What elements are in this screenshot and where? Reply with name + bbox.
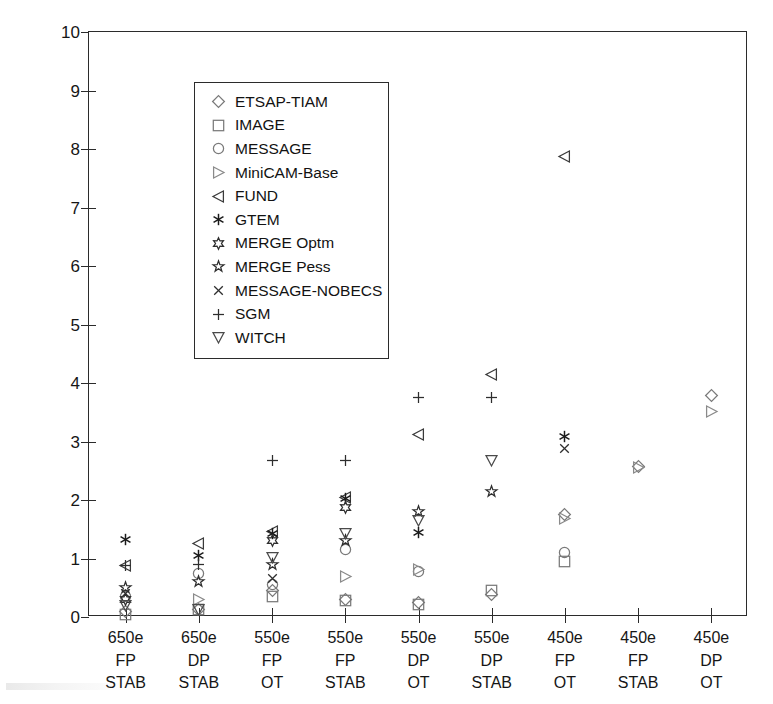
x-tick-mark-inner	[272, 608, 273, 615]
data-point-circle	[117, 588, 135, 606]
legend-item-witch[interactable]: WITCH	[201, 326, 382, 350]
legend-item-image[interactable]: IMAGE	[201, 114, 382, 138]
legend-item-label: WITCH	[235, 329, 286, 347]
x-tick-mark	[492, 615, 493, 623]
data-point-asterisk	[336, 490, 354, 508]
legend-item-label: MESSAGE-NOBECS	[235, 282, 382, 300]
legend-item-gtem[interactable]: GTEM	[201, 208, 382, 232]
y-tick-label: 5	[71, 316, 80, 333]
data-point-triangle-left	[556, 147, 574, 165]
data-point-triangle-down	[263, 548, 281, 566]
x-category-label-line: DP	[401, 650, 437, 673]
data-point-asterisk	[117, 531, 135, 549]
data-point-triangle-down	[410, 511, 428, 529]
legend-item-fund[interactable]: FUND	[201, 184, 382, 208]
x-tick-mark	[638, 615, 639, 623]
data-point-triangle-left	[483, 365, 501, 383]
y-tick-mark-inner	[89, 91, 96, 92]
legend-item-label: ETSAP-TIAM	[235, 93, 328, 111]
data-point-square	[483, 582, 501, 600]
x-category-label-line: FP	[547, 650, 583, 673]
data-point-pentagram	[410, 503, 428, 521]
x-category-label-line: STAB	[618, 672, 659, 695]
x-category-label-line: 550e	[471, 627, 512, 650]
data-point-cross	[263, 570, 281, 588]
data-point-triangle-left	[336, 488, 354, 506]
x-category-label-line: OT	[547, 672, 583, 695]
x-tick-mark-inner	[492, 608, 493, 615]
data-point-cross	[556, 440, 574, 458]
x-category-label-line: DP	[179, 650, 220, 673]
x-category-label-line: OT	[694, 672, 730, 695]
legend-item-label: MiniCAM-Base	[235, 164, 338, 182]
x-category-label-line: 450e	[547, 627, 583, 650]
data-point-diamond	[629, 458, 647, 476]
legend-item-sgm[interactable]: SGM	[201, 302, 382, 326]
data-point-asterisk	[263, 525, 281, 543]
x-category-label: 550eFPOT	[254, 627, 290, 695]
data-point-triangle-down	[336, 525, 354, 543]
legend-box: ETSAP-TIAMIMAGEMESSAGEMiniCAM-BaseFUNDGT…	[194, 82, 389, 359]
legend-item-merge-pess[interactable]: MERGE Pess	[201, 255, 382, 279]
legend-item-message-nobecs[interactable]: MESSAGE-NOBECS	[201, 279, 382, 303]
cross-icon	[201, 284, 235, 297]
data-point-asterisk	[556, 428, 574, 446]
x-category-label-line: 550e	[401, 627, 437, 650]
y-tick-label: 0	[71, 609, 80, 626]
data-point-triangle-left	[263, 522, 281, 540]
data-point-plus	[336, 451, 354, 469]
data-point-triangle-right	[556, 510, 574, 528]
legend-item-minicam-base[interactable]: MiniCAM-Base	[201, 161, 382, 185]
data-point-circle	[336, 541, 354, 559]
x-category-label-line: FP	[618, 650, 659, 673]
x-category-label-line: 450e	[618, 627, 659, 650]
y-tick-mark	[81, 208, 89, 209]
data-point-triangle-left	[117, 557, 135, 575]
y-tick-mark	[81, 266, 89, 267]
data-point-triangle-down	[483, 451, 501, 469]
x-category-label-line: 450e	[694, 627, 730, 650]
triangle-right-icon	[201, 166, 235, 179]
pentagram-icon	[201, 260, 235, 273]
data-point-asterisk	[190, 547, 208, 565]
data-point-plus	[263, 451, 281, 469]
data-point-diamond	[336, 590, 354, 608]
x-category-label-line: DP	[694, 650, 730, 673]
x-category-label-line: 550e	[254, 627, 290, 650]
legend-item-etsap-tiam[interactable]: ETSAP-TIAM	[201, 90, 382, 114]
data-point-triangle-left	[190, 535, 208, 553]
x-tick-mark-inner	[126, 608, 127, 615]
legend-item-label: MESSAGE	[235, 140, 312, 158]
hexagram-icon	[201, 237, 235, 250]
data-point-pentagram	[117, 579, 135, 597]
circle-icon	[201, 142, 235, 155]
data-point-square	[556, 552, 574, 570]
y-tick-label: 7	[71, 199, 80, 216]
x-tick-mark	[711, 615, 712, 623]
data-point-hexagram	[263, 532, 281, 550]
x-category-label-line: STAB	[179, 672, 220, 695]
y-tick-mark	[81, 500, 89, 501]
data-point-circle	[410, 562, 428, 580]
data-point-triangle-left	[410, 425, 428, 443]
x-tick-mark-inner	[419, 608, 420, 615]
legend-item-message[interactable]: MESSAGE	[201, 137, 382, 161]
data-point-pentagram	[263, 555, 281, 573]
x-category-label-line: OT	[401, 672, 437, 695]
legend-item-merge-optm[interactable]: MERGE Optm	[201, 232, 382, 256]
y-tick-mark-inner	[89, 559, 96, 560]
x-tick-mark	[345, 615, 346, 623]
data-point-diamond	[556, 506, 574, 524]
x-category-label-line: FP	[325, 650, 366, 673]
x-category-label-line: 550e	[325, 627, 366, 650]
triangle-left-icon	[201, 190, 235, 203]
y-tick-mark	[81, 559, 89, 560]
x-category-label-line: FP	[254, 650, 290, 673]
data-point-cross	[117, 585, 135, 603]
data-point-circle	[556, 544, 574, 562]
x-category-label-line: OT	[254, 672, 290, 695]
square-icon	[201, 119, 235, 132]
data-point-diamond	[702, 387, 720, 405]
y-tick-mark-inner	[89, 500, 96, 501]
y-tick-label: 3	[71, 433, 80, 450]
